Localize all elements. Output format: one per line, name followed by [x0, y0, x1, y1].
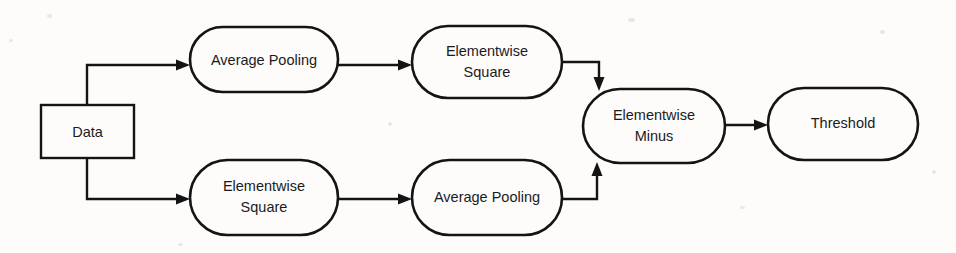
node-shape-stadium[interactable]: [190, 160, 338, 235]
node-group: Data Average Pooling Elementwise Square: [41, 26, 918, 235]
node-avg-pool-top[interactable]: Average Pooling: [190, 27, 338, 92]
node-label-avg-pool-top: Average Pooling: [211, 51, 317, 67]
edge-elemminus-to-threshold: [725, 120, 768, 131]
edge-data-to-avgpool-top: [87, 60, 190, 106]
arrowhead-right-icon: [398, 194, 412, 205]
node-label-elem-minus: Elementwise: [613, 107, 695, 123]
flowchart-diagram: Data Average Pooling Elementwise Square: [0, 0, 956, 253]
node-label-avg-pool-bottom: Average Pooling: [434, 189, 540, 205]
node-label-elem-minus-line2: Minus: [635, 128, 674, 144]
node-label-threshold: Threshold: [811, 115, 875, 131]
node-elem-square-bottom[interactable]: Elementwise Square: [190, 160, 338, 235]
edge-data-to-elemsquare-bottom: [87, 158, 190, 205]
node-label-elem-square-bottom-line2: Square: [241, 199, 288, 215]
flowchart-canvas: Data Average Pooling Elementwise Square: [0, 0, 956, 253]
node-label-elem-square-top-line2: Square: [464, 64, 511, 80]
node-label-data: Data: [72, 123, 104, 139]
edge-line: [87, 65, 182, 105]
arrowhead-right-icon: [398, 60, 412, 71]
node-shape-stadium[interactable]: [412, 26, 562, 98]
edge-avgpool-top-to-elemsquare-top: [338, 60, 412, 71]
edge-elemsquare-top-to-elemminus: [562, 62, 605, 91]
arrowhead-right-icon: [754, 120, 768, 131]
arrowhead-right-icon: [176, 194, 190, 205]
edge-line: [562, 62, 599, 81]
node-elem-minus[interactable]: Elementwise Minus: [583, 89, 725, 163]
node-elem-square-top[interactable]: Elementwise Square: [412, 26, 562, 98]
arrowhead-right-icon: [176, 60, 190, 71]
node-shape-stadium[interactable]: [583, 89, 725, 163]
node-label-elem-square-bottom: Elementwise: [223, 178, 305, 194]
edge-line: [87, 158, 182, 199]
edge-elemsquare-bottom-to-avgpool-bottom: [337, 194, 412, 205]
arrowhead-down-icon: [594, 77, 605, 91]
node-label-elem-square-top: Elementwise: [446, 43, 528, 59]
edge-line: [562, 172, 597, 199]
node-threshold[interactable]: Threshold: [768, 88, 918, 160]
node-data[interactable]: Data: [41, 105, 134, 158]
edge-avgpool-bottom-to-elemminus: [562, 162, 603, 199]
arrowhead-up-icon: [592, 162, 603, 176]
node-avg-pool-bottom[interactable]: Average Pooling: [412, 160, 562, 235]
